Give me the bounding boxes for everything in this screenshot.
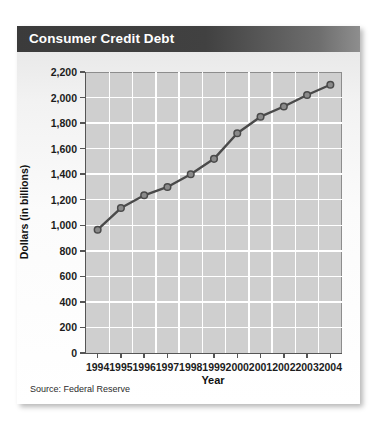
x-axis-tick [330,353,332,358]
x-axis-tick [190,353,192,358]
y-axis-tick-label: 200 [59,321,77,333]
x-axis-tick-label: 2000 [226,361,249,373]
y-axis-tick [80,97,85,99]
y-axis-tick-label: 800 [59,245,77,257]
y-axis-tick-label: 1,000 [51,219,77,231]
y-axis-tick-label: 1,800 [51,117,77,129]
y-axis-title: Dollars (in billions) [18,165,30,260]
y-axis-tick [80,173,85,175]
x-axis-tick [120,353,122,358]
x-axis-tick-label: 1998 [179,361,202,373]
data-point-marker [187,171,194,178]
x-axis-tick [213,353,215,358]
page-title: Consumer Credit Debt [29,31,174,46]
x-axis-tick [97,353,99,358]
x-axis-tick [306,353,308,358]
y-axis-tick-label: 1,200 [51,194,77,206]
data-point-marker [164,184,171,191]
chart-title-bar: Consumer Credit Debt [17,26,360,52]
x-axis-tick [167,353,169,358]
x-axis-tick-label: 2003 [295,361,318,373]
data-point-marker [257,113,264,120]
y-axis-tick-label: 400 [59,296,77,308]
y-axis-tick [80,276,85,278]
data-point-marker [94,226,101,233]
x-axis-tick-label: 1994 [86,361,109,373]
x-axis-tick-label: 1995 [109,361,132,373]
y-axis-tick-label: 2,000 [51,92,77,104]
data-point-marker [211,156,218,163]
source-note: Source: Federal Reserve [30,384,130,394]
y-axis-tick-label: 1,400 [51,168,77,180]
data-point-marker [304,92,311,99]
x-axis-tick-label: 2002 [272,361,295,373]
plot-area: 02004006008001,0001,2001,4001,6001,8002,… [85,72,342,354]
y-axis-tick [80,301,85,303]
x-axis-tick-label: 1996 [132,361,155,373]
data-point-marker [281,103,288,110]
x-axis-tick-label: 2004 [319,361,342,373]
data-point-marker [234,130,241,137]
x-axis-tick [143,353,145,358]
y-axis-tick-label: 1,600 [51,143,77,155]
y-axis-tick [80,148,85,150]
y-axis-tick [80,352,85,354]
y-axis-tick [80,250,85,252]
x-axis-tick-label: 1997 [156,361,179,373]
y-axis-tick [80,327,85,329]
chart-panel: Consumer Credit Debt Dollars (in billion… [17,26,360,404]
x-axis-tick [283,353,285,358]
chart-body: Dollars (in billions) 02004006008001,000… [17,52,360,404]
data-point-marker [327,81,334,88]
y-axis-tick [80,122,85,124]
data-point-marker [141,192,148,199]
y-axis-tick [80,225,85,227]
data-point-marker [118,205,125,212]
y-axis-tick-label: 0 [71,347,77,359]
x-axis-tick [237,353,239,358]
y-axis-tick-label: 600 [59,270,77,282]
series-line-chart [86,72,342,353]
x-axis-tick [260,353,262,358]
y-axis-tick [80,199,85,201]
x-axis-tick-label: 1999 [202,361,225,373]
y-axis-tick [80,71,85,73]
x-axis-tick-label: 2001 [249,361,272,373]
y-axis-tick-label: 2,200 [51,66,77,78]
